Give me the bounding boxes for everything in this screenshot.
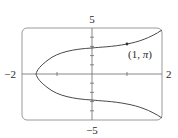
point-label: (1, π) — [128, 48, 152, 61]
point-label-open: (1, — [128, 48, 143, 61]
point-marker — [126, 43, 129, 46]
parametric-curve-chart: 5 −5 −2 2 (1, π) — [0, 0, 178, 138]
x-min-label: −2 — [4, 68, 16, 80]
point-label-close: ) — [148, 48, 152, 61]
y-max-label: 5 — [89, 13, 95, 25]
y-min-label: −5 — [86, 124, 98, 136]
x-max-label: 2 — [166, 68, 172, 80]
